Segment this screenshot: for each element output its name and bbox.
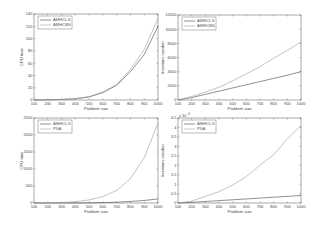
svg-text:4: 4 — [188, 112, 190, 116]
x-tick-label: 400 — [72, 204, 79, 209]
y-exponent-label: x 10 — [179, 113, 187, 118]
x-tick-label: 1000 — [154, 101, 164, 106]
x-axis-label: Problem size — [227, 106, 252, 111]
x-axis-label: Problem size — [84, 106, 109, 111]
subplot-iterations-amhcls-vs-amhcbs: 1002003004005006007008009001000020004000… — [160, 12, 306, 110]
x-tick-label: 700 — [257, 204, 264, 209]
x-tick-label: 1000 — [154, 204, 164, 209]
legend-label: PSA — [197, 126, 206, 131]
y-tick-label: 4 — [174, 125, 177, 130]
y-tick-label: 20 — [28, 85, 33, 90]
x-axis-label: Problem size — [227, 209, 252, 214]
x-tick-label: 900 — [284, 101, 291, 106]
x-tick-label: 300 — [202, 101, 209, 106]
y-tick-label: 140 — [26, 11, 33, 16]
y-tick-label: 2 — [174, 163, 177, 168]
y-tick-label: 12000 — [165, 12, 177, 17]
x-tick-label: 800 — [270, 101, 277, 106]
legend-label: AMHCBS — [197, 23, 215, 28]
x-tick-label: 400 — [72, 101, 79, 106]
x-tick-label: 800 — [127, 204, 134, 209]
x-tick-label: 200 — [188, 204, 195, 209]
y-tick-label: 0.5 — [171, 191, 177, 196]
y-tick-label: 8000 — [168, 41, 178, 46]
y-axis-label: CPU time — [19, 151, 24, 170]
y-tick-label: 2000 — [168, 83, 178, 88]
figure-canvas: 1002003004005006007008009001000020406080… — [0, 0, 320, 226]
legend-label: AMHCBS — [53, 22, 71, 27]
y-tick-label: 1.5 — [171, 172, 177, 177]
x-tick-label: 200 — [44, 204, 51, 209]
x-tick-label: 800 — [127, 101, 134, 106]
y-axis-label: Iterations number — [160, 41, 165, 74]
y-tick-label: 1000 — [24, 166, 34, 171]
y-axis-label: Iterations number — [160, 144, 165, 177]
x-tick-label: 1000 — [297, 204, 307, 209]
x-tick-label: 700 — [113, 204, 120, 209]
subplot-iterations-amhcls-vs-psa: 100200300400500600700800900100000.511.52… — [160, 112, 306, 214]
subplot-cpu-time-amhcls-vs-psa: 1002003004005006007008009001000050010001… — [19, 115, 163, 213]
x-tick-label: 300 — [58, 101, 65, 106]
x-tick-label: 700 — [257, 101, 264, 106]
y-tick-label: 6000 — [168, 55, 178, 60]
x-tick-label: 400 — [216, 204, 223, 209]
y-tick-label: 2.5 — [171, 153, 177, 158]
y-tick-label: 120 — [26, 24, 33, 29]
y-axis-label: CPU time — [19, 47, 24, 66]
x-tick-label: 300 — [202, 204, 209, 209]
y-tick-label: 4000 — [168, 69, 178, 74]
y-tick-label: 1 — [174, 182, 177, 187]
subplot-cpu-time-amhcls-vs-amhcbs: 1002003004005006007008009001000020406080… — [19, 11, 163, 110]
x-tick-label: 900 — [284, 204, 291, 209]
y-tick-label: 40 — [28, 73, 33, 78]
y-tick-label: 3 — [174, 144, 177, 149]
x-tick-label: 200 — [188, 101, 195, 106]
x-tick-label: 1000 — [297, 101, 307, 106]
y-tick-label: 500 — [26, 183, 33, 188]
x-tick-label: 400 — [216, 101, 223, 106]
y-tick-label: 60 — [28, 61, 33, 66]
x-tick-label: 700 — [113, 101, 120, 106]
y-tick-label: 2000 — [24, 132, 34, 137]
y-tick-label: 3.5 — [171, 134, 177, 139]
x-tick-label: 900 — [141, 204, 148, 209]
y-tick-label: 100 — [26, 36, 33, 41]
y-tick-label: 1500 — [24, 149, 34, 154]
x-tick-label: 800 — [270, 204, 277, 209]
x-tick-label: 200 — [44, 101, 51, 106]
x-tick-label: 900 — [141, 101, 148, 106]
y-tick-label: 4.5 — [171, 115, 177, 120]
y-tick-label: 2500 — [24, 115, 34, 120]
y-tick-label: 10000 — [165, 27, 177, 32]
y-tick-label: 80 — [28, 48, 33, 53]
x-tick-label: 300 — [58, 204, 65, 209]
legend-label: PSA — [53, 126, 62, 131]
x-axis-label: Problem size — [84, 209, 109, 214]
